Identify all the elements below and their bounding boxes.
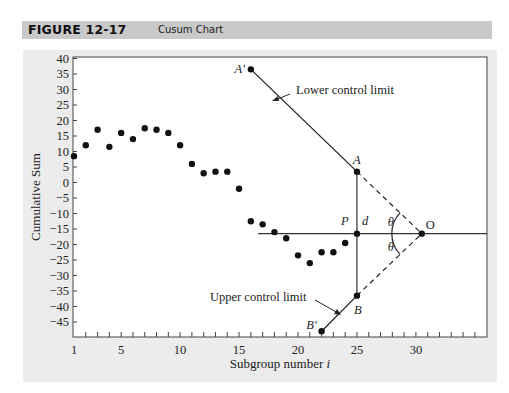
y-tick-label: −10 <box>49 207 69 221</box>
y-tick-label: 25 <box>57 98 70 112</box>
point-a <box>354 168 360 174</box>
x-axis-title-main: Subgroup number <box>230 356 324 371</box>
label-a-prime: A' <box>234 62 246 76</box>
label-d: d <box>362 214 369 228</box>
label-p: P <box>340 214 349 228</box>
y-tick-label: 40 <box>57 52 70 66</box>
label-theta-lower: θ <box>388 240 394 254</box>
label-b-prime: B' <box>306 318 317 332</box>
y-tick-label: 0 <box>63 176 69 190</box>
point-o <box>419 230 425 236</box>
x-tick-label: 5 <box>118 343 124 357</box>
x-tick-label: 20 <box>292 343 305 357</box>
data-point <box>248 218 254 224</box>
x-tick-label: 1 <box>71 343 77 357</box>
data-point <box>177 142 183 148</box>
data-point <box>189 161 195 167</box>
data-point <box>142 125 148 131</box>
data-point <box>224 168 230 174</box>
data-point <box>318 249 324 255</box>
data-point <box>153 127 159 133</box>
label-o: O <box>426 218 435 232</box>
y-axis-title: Cumulative Sum <box>28 153 43 241</box>
data-point <box>259 221 265 227</box>
data-point <box>330 249 336 255</box>
cusum-chart: 4035302520151050−5−10−15−20−25−30−35−40−… <box>0 0 509 393</box>
data-point <box>271 229 277 235</box>
y-tick-label: 20 <box>57 114 70 128</box>
data-point <box>118 130 124 136</box>
data-point <box>200 170 206 176</box>
y-tick-label: −30 <box>49 269 69 283</box>
label-theta-upper: θ <box>388 215 394 229</box>
point-a-prime <box>248 66 254 72</box>
y-tick-label: 10 <box>57 145 70 159</box>
data-point <box>106 144 112 150</box>
point-b-prime <box>318 328 324 334</box>
x-tick-label: 10 <box>174 343 187 357</box>
upper-control-limit-label: Upper control limit <box>210 290 307 304</box>
label-a: A <box>352 153 361 167</box>
x-tick-label: 15 <box>233 343 246 357</box>
y-tick-label: 5 <box>63 160 69 174</box>
data-point <box>236 186 242 192</box>
y-tick-label: −40 <box>49 300 69 314</box>
data-point <box>307 260 313 266</box>
lower-control-limit-label: Lower control limit <box>296 83 394 97</box>
y-tick-label: −15 <box>49 222 69 236</box>
x-axis-title-var: i <box>327 356 331 371</box>
y-tick-label: −45 <box>49 315 69 329</box>
data-point <box>212 168 218 174</box>
data-point <box>283 235 289 241</box>
data-point <box>342 240 348 246</box>
data-point <box>71 153 77 159</box>
x-axis-title: Subgroup number i <box>230 356 331 371</box>
y-tick-label: −20 <box>49 238 69 252</box>
data-point <box>295 252 301 258</box>
y-tick-label: −25 <box>49 253 69 267</box>
data-point <box>94 127 100 133</box>
point-b <box>354 292 360 298</box>
data-point <box>130 136 136 142</box>
y-tick-label: 35 <box>57 67 70 81</box>
data-point <box>83 142 89 148</box>
data-point <box>165 130 171 136</box>
x-tick-label: 30 <box>410 343 423 357</box>
y-tick-label: −35 <box>49 284 69 298</box>
label-b: B <box>354 303 362 317</box>
y-tick-label: −5 <box>56 191 69 205</box>
data-point <box>354 230 360 236</box>
x-tick-label: 25 <box>351 343 364 357</box>
y-tick-label: 30 <box>57 83 70 97</box>
y-tick-label: 15 <box>57 129 70 143</box>
